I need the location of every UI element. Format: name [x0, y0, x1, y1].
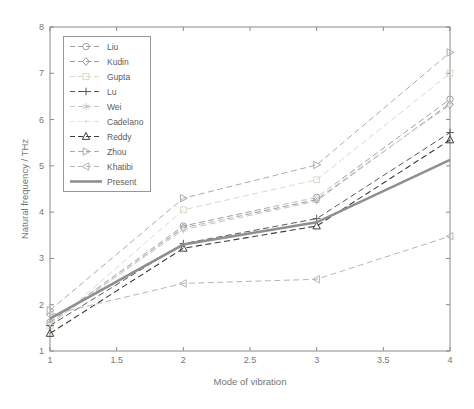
legend-sample-square-icon [69, 70, 103, 83]
y-tick-label: 5 [39, 161, 44, 171]
marker-dot [449, 104, 452, 107]
x-tick-label: 3 [314, 355, 319, 365]
legend-label: Wei [107, 102, 122, 112]
legend-label: Kudin [107, 57, 129, 67]
y-tick-label: 2 [39, 300, 44, 310]
x-tick-label: 2 [181, 355, 186, 365]
chart-figure: 11.522.533.5412345678 LiuKudinGuptaLuWei… [0, 0, 474, 409]
legend-item-gupta: Gupta [69, 69, 150, 84]
y-axis-label: Natural frequency / THz [19, 139, 30, 239]
legend-sample-triangle-left-icon [69, 160, 103, 173]
legend-label: Present [107, 177, 136, 187]
legend-item-zhou: Zhou [69, 144, 150, 159]
y-tick-label: 7 [39, 68, 44, 78]
marker-dot [85, 120, 88, 123]
legend-item-lu: Lu [69, 84, 150, 99]
legend-label: Khatibi [107, 162, 133, 172]
legend-sample-triangle-right-icon [69, 145, 103, 158]
legend-label: Liu [107, 42, 118, 52]
x-tick-label: 1.5 [110, 355, 123, 365]
y-tick-label: 6 [39, 115, 44, 125]
legend-sample-asterisk-icon [69, 100, 103, 113]
legend-item-present: Present [69, 174, 150, 189]
x-tick-label: 1 [47, 355, 52, 365]
legend-item-wei: Wei [69, 99, 150, 114]
x-tick-label: 2.5 [244, 355, 257, 365]
legend-item-liu: Liu [69, 39, 150, 54]
legend-item-cadelano: Cadelano [69, 114, 150, 129]
legend-label: Cadelano [107, 117, 143, 127]
marker-triangle-right [447, 49, 454, 56]
legend-sample-dot-icon [69, 115, 103, 128]
y-tick-label: 3 [39, 253, 44, 263]
legend-sample-diamond-icon [69, 55, 103, 68]
series-khatibi [46, 233, 453, 319]
legend-item-kudin: Kudin [69, 54, 150, 69]
x-tick-label: 3.5 [377, 355, 390, 365]
marker-dot [315, 195, 318, 198]
legend-label: Zhou [107, 147, 126, 157]
marker-dot [49, 323, 52, 326]
legend-item-reddy: Reddy [69, 129, 150, 144]
x-tick-label: 4 [447, 355, 452, 365]
legend-sample-circle-icon [69, 40, 103, 53]
legend-label: Reddy [107, 132, 132, 142]
legend-sample-none-line [69, 175, 103, 188]
marker-dot [182, 227, 185, 230]
legend-label: Gupta [107, 72, 130, 82]
legend-item-khatibi: Khatibi [69, 159, 150, 174]
y-tick-label: 4 [39, 207, 44, 217]
legend-sample-plus-icon [69, 85, 103, 98]
legend-box: LiuKudinGuptaLuWeiCadelanoReddyZhouKhati… [63, 36, 151, 192]
legend-sample-triangle-up-icon [69, 130, 103, 143]
y-tick-label: 8 [39, 22, 44, 32]
series-line [50, 236, 450, 315]
legend-label: Lu [107, 87, 116, 97]
x-axis-label: Mode of vibration [50, 376, 450, 387]
y-tick-label: 1 [39, 346, 44, 356]
marker-triangle-up [82, 133, 89, 140]
